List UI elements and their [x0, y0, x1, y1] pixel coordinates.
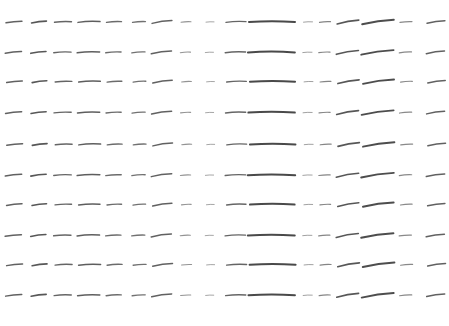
stroke-glyph	[106, 235, 121, 236]
stroke-glyph	[107, 264, 122, 265]
stroke-glyph	[250, 81, 295, 82]
glyph-row	[6, 110, 445, 115]
stroke-glyph	[6, 21, 22, 23]
stroke-glyph	[55, 204, 71, 205]
stroke-glyph	[77, 175, 100, 176]
stroke-glyph	[426, 234, 444, 237]
stroke-glyph	[32, 264, 47, 266]
stroke-glyph	[55, 144, 72, 145]
stroke-glyph	[153, 263, 173, 266]
stroke-glyph	[78, 295, 100, 296]
stroke-glyph	[225, 235, 245, 236]
stroke-glyph	[106, 112, 121, 113]
stroke-glyph	[181, 295, 191, 296]
stroke-glyph	[31, 174, 46, 176]
stroke-glyph	[132, 112, 145, 113]
stroke-glyph	[31, 294, 46, 296]
stroke-glyph	[182, 144, 192, 145]
stroke-glyph	[337, 111, 359, 115]
stroke-glyph	[399, 52, 411, 53]
stroke-glyph	[55, 81, 72, 82]
stroke-glyph	[336, 234, 358, 238]
stroke-glyph	[152, 294, 172, 297]
stroke-glyph	[250, 264, 296, 265]
stroke-glyph	[338, 263, 360, 267]
stroke-glyph	[77, 235, 99, 236]
stroke-glyph	[151, 51, 171, 54]
stroke-glyph	[132, 295, 145, 296]
stroke-glyph	[227, 264, 247, 265]
stroke-glyph	[249, 21, 295, 22]
stroke-glyph	[153, 80, 172, 83]
stroke-glyph	[5, 174, 21, 176]
stroke-glyph	[7, 144, 23, 146]
stroke-glyph	[427, 21, 445, 24]
stroke-glyph	[363, 202, 394, 206]
stroke-glyph	[250, 204, 295, 205]
glyph-row	[7, 142, 446, 146]
stroke-glyph	[152, 111, 172, 114]
stroke-glyph	[54, 112, 71, 113]
stroke-glyph	[426, 51, 444, 54]
stroke-glyph	[107, 204, 122, 205]
stroke-glyph	[181, 204, 191, 205]
stroke-glyph	[320, 264, 331, 265]
stroke-glyph	[7, 264, 23, 266]
stroke-glyph	[106, 175, 121, 176]
stroke-glyph	[54, 235, 71, 236]
glyph-row	[6, 293, 445, 298]
stroke-glyph	[320, 22, 331, 23]
stroke-glyph	[227, 144, 247, 145]
stroke-glyph	[428, 80, 445, 82]
stroke-glyph	[226, 21, 246, 22]
stroke-glyph	[427, 294, 445, 297]
stroke-glyph	[31, 112, 46, 114]
stroke-glyph	[79, 204, 100, 205]
stroke-glyph	[79, 81, 101, 82]
glyph-row	[5, 233, 444, 238]
stroke-glyph	[55, 21, 72, 22]
stroke-glyph	[399, 235, 411, 236]
stroke-glyph	[133, 22, 146, 23]
stroke-glyph	[428, 143, 446, 145]
stroke-glyph	[180, 235, 190, 236]
stroke-glyph	[401, 144, 413, 145]
stroke-glyph	[79, 144, 101, 145]
stroke-glyph	[248, 235, 295, 236]
glyph-row	[6, 20, 445, 24]
stroke-glyph	[226, 295, 246, 296]
stroke-glyph	[79, 264, 101, 265]
stroke-glyph	[400, 295, 412, 296]
stroke-glyph	[320, 81, 331, 82]
stroke-glyph	[31, 51, 46, 53]
stroke-glyph	[362, 110, 394, 115]
stroke-glyph	[248, 112, 294, 113]
stroke-glyph	[400, 112, 412, 113]
stroke-glyph	[133, 144, 146, 145]
glyph-row	[5, 50, 444, 55]
stroke-glyph	[320, 144, 331, 145]
stroke-glyph	[338, 80, 359, 84]
stroke-glyph	[107, 21, 122, 22]
stroke-glyph	[362, 20, 394, 24]
stroke-glyph	[181, 22, 191, 23]
stroke-glyph	[32, 204, 46, 206]
stroke-glyph	[106, 52, 121, 53]
stroke-glyph	[133, 264, 146, 265]
stroke-glyph	[338, 143, 359, 147]
stroke-glyph	[78, 112, 100, 113]
stroke-glyph	[151, 234, 171, 237]
stroke-glyph	[132, 175, 145, 176]
stroke-glyph	[133, 81, 146, 82]
glyph-field	[0, 0, 449, 326]
stroke-glyph	[248, 52, 295, 53]
stroke-glyph	[400, 204, 412, 205]
stroke-glyph	[362, 293, 394, 298]
stroke-glyph	[152, 21, 172, 24]
stroke-glyph	[319, 112, 330, 113]
stroke-glyph	[248, 174, 295, 175]
stroke-glyph	[132, 235, 145, 236]
stroke-glyph	[336, 50, 358, 54]
stroke-glyph	[54, 175, 72, 176]
stroke-glyph	[77, 52, 99, 53]
